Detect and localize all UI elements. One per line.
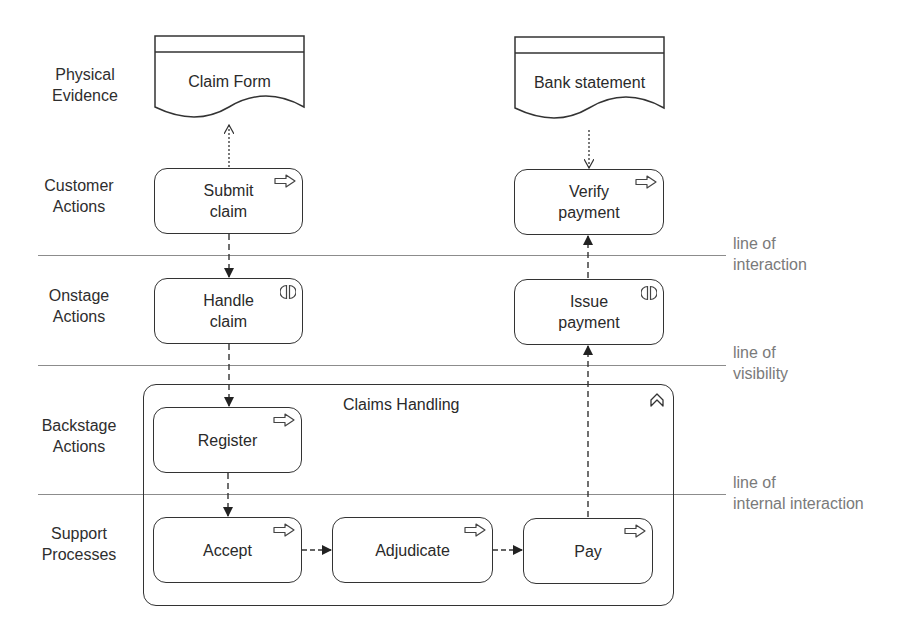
node-label: Adjudicate [375,540,450,561]
document-bank-statement[interactable]: Bank statement [514,36,665,126]
line-of-visibility-label: line of visibility [733,342,788,384]
group-title: Claims Handling [343,395,460,415]
lane-label-support-processes: Support Processes [14,523,144,565]
document-claim-form[interactable]: Claim Form [154,35,305,125]
node-label: Issue payment [558,291,619,333]
line-of-visibility [38,365,726,366]
process-arrow-icon [635,175,657,189]
node-verify-payment[interactable]: Verify payment [514,169,664,235]
lane-label-backstage-actions: Backstage Actions [14,415,144,457]
node-label: Submit claim [204,180,254,222]
interaction-icon [641,285,657,301]
line-of-interaction [38,255,726,256]
process-arrow-icon [273,413,295,427]
node-label: Accept [203,540,252,561]
process-arrow-icon [624,524,646,538]
document-label: Claim Form [154,72,305,92]
node-label: Pay [574,541,602,562]
node-register[interactable]: Register [153,407,302,473]
node-issue-payment[interactable]: Issue payment [514,279,664,345]
document-label: Bank statement [514,73,665,93]
line-of-internal-interaction-label: line of internal interaction [733,472,864,514]
process-arrow-icon [464,523,486,537]
lane-label-onstage-actions: Onstage Actions [14,285,144,327]
node-submit-claim[interactable]: Submit claim [154,168,303,234]
service-blueprint-diagram: Physical Evidence Customer Actions Onsta… [0,0,911,631]
node-label: Handle claim [203,290,254,332]
node-accept[interactable]: Accept [153,517,302,583]
node-label: Verify payment [558,181,619,223]
node-adjudicate[interactable]: Adjudicate [332,517,493,583]
value-stream-chevron-icon [649,392,665,408]
lane-label-physical-evidence: Physical Evidence [20,64,150,106]
interaction-icon [280,284,296,300]
node-pay[interactable]: Pay [523,518,653,584]
line-of-interaction-label: line of interaction [733,233,807,275]
process-arrow-icon [273,523,295,537]
node-handle-claim[interactable]: Handle claim [154,278,303,344]
lane-label-customer-actions: Customer Actions [14,175,144,217]
process-arrow-icon [274,174,296,188]
node-label: Register [198,430,258,451]
